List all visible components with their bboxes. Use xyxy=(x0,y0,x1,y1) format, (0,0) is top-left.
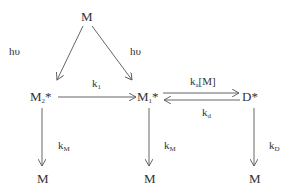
label-kM-left: kM xyxy=(58,140,70,153)
label-kd-sub: d xyxy=(208,112,212,120)
label-kd: kd xyxy=(202,107,211,120)
arrow-M-to-M2 xyxy=(57,26,83,80)
node-M-bottom-mid: M xyxy=(144,172,156,185)
node-M1-excited: M1* xyxy=(137,90,159,105)
label-ka-suffix: [M] xyxy=(199,75,216,87)
node-M1-star: * xyxy=(152,89,159,104)
label-kM-left-sub: M xyxy=(64,145,70,153)
node-D-excited: D* xyxy=(242,90,258,103)
label-k1: k1 xyxy=(92,78,101,91)
label-k1-sub: 1 xyxy=(98,83,102,91)
node-M2-base: M xyxy=(30,89,42,104)
label-hv-right: hυ xyxy=(130,46,141,57)
label-kM-mid-sub: M xyxy=(170,145,176,153)
node-M2-excited: M2* xyxy=(30,90,52,105)
label-ka: ka[M] xyxy=(190,76,216,89)
label-hv-left: hυ xyxy=(9,46,20,57)
node-M-bottom-right: M xyxy=(249,172,261,185)
node-M-bottom-left: M xyxy=(37,172,49,185)
label-kD-sub: D xyxy=(275,145,280,153)
node-M1-base: M xyxy=(137,89,149,104)
label-kM-mid: kM xyxy=(164,140,176,153)
arrow-M-to-M1 xyxy=(92,26,132,80)
label-kD: kD xyxy=(269,140,280,153)
node-M2-star: * xyxy=(45,89,52,104)
node-M-top: M xyxy=(81,10,93,23)
